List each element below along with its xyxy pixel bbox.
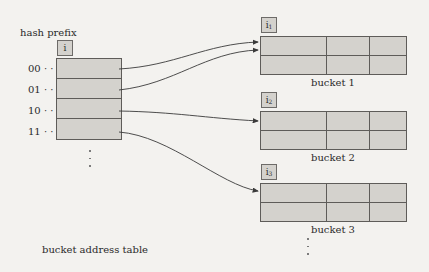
arrow-11-to-bucket-3 bbox=[119, 132, 258, 191]
arrow-01-to-bucket-1 bbox=[119, 50, 258, 90]
arrow-00-to-bucket-1 bbox=[119, 42, 258, 69]
arrow-10-to-bucket-2 bbox=[119, 111, 258, 121]
pointer-arrows bbox=[0, 0, 429, 272]
